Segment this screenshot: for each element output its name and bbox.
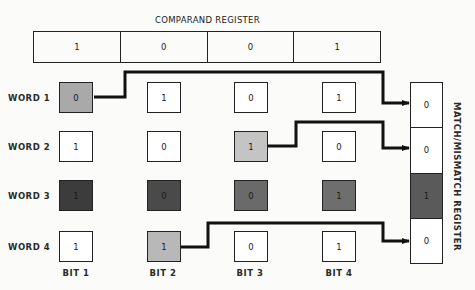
match-bit-word-3: 1 xyxy=(411,174,442,219)
word-3-bit-4: 1 xyxy=(322,180,356,211)
word-2-bit-3: 1 xyxy=(234,131,268,162)
word-3-bit-3: 0 xyxy=(234,180,268,211)
word-3-label: WORD 3 xyxy=(8,191,50,201)
word-1-bit-2: 1 xyxy=(147,82,181,113)
bit-1-label: BIT 1 xyxy=(56,268,96,278)
word-2-bit-1: 1 xyxy=(59,131,93,162)
match-bit-word-4: 0 xyxy=(411,219,442,263)
word-1-bit-4: 1 xyxy=(322,82,356,113)
word-3-bit-2: 0 xyxy=(147,180,181,211)
word-1-bit-1: 0 xyxy=(59,82,93,113)
bit-2-label: BIT 2 xyxy=(143,268,183,278)
match-register-title: MATCH/MISMATCH REGISTER xyxy=(452,102,462,251)
match-bit-word-2: 0 xyxy=(411,128,442,173)
word-4-bit-4: 1 xyxy=(322,231,356,262)
word-2-label: WORD 2 xyxy=(8,142,50,152)
word-2-bit-4: 0 xyxy=(322,131,356,162)
word-4-bit-1: 1 xyxy=(59,231,93,262)
word-1-bit-3: 0 xyxy=(234,82,268,113)
word-4-bit-2: 1 xyxy=(147,231,181,262)
word-3-bit-1: 1 xyxy=(59,180,93,211)
word-4-label: WORD 4 xyxy=(8,242,50,252)
bit-4-label: BIT 4 xyxy=(319,268,359,278)
word-1-label: WORD 1 xyxy=(8,93,50,103)
bit-3-label: BIT 3 xyxy=(230,268,270,278)
match-bit-word-1: 0 xyxy=(411,83,442,128)
word-2-bit-2: 0 xyxy=(147,131,181,162)
match-mismatch-register: 0 0 1 0 xyxy=(410,82,443,264)
word-4-bit-3: 0 xyxy=(234,231,268,262)
